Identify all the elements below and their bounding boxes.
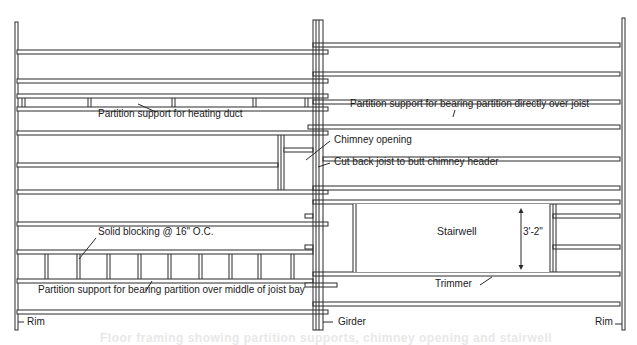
stairwell-tail-joist (553, 245, 620, 249)
girder-splice-block (305, 283, 337, 287)
floor-joist-left (17, 190, 328, 194)
bearing-over-joist-leader (453, 110, 455, 117)
label-bearing-over-joist: Partition support for bearing partition … (350, 98, 589, 109)
floor-joist-left (17, 50, 328, 54)
floor-joist-right (313, 200, 620, 204)
label-stair-dimension: 3'-2" (523, 226, 543, 237)
label-cut-back-joist: Cut back joist to butt chimney header (334, 156, 499, 167)
floor-joist-right (313, 186, 620, 190)
label-middle-of-bay: Partition support for bearing partition … (38, 284, 305, 295)
floor-joist-left (17, 163, 278, 167)
right-rim-joist (622, 18, 625, 330)
label-girder: Girder (338, 316, 366, 327)
cut-back-joist-leader (318, 163, 330, 167)
label-chimney-opening: Chimney opening (334, 134, 412, 145)
stairwell-opening (353, 204, 550, 272)
floor-joist-left (17, 250, 313, 254)
floor-joist-right (313, 43, 620, 47)
left-rim-joist (15, 22, 18, 330)
label-stairwell: Stairwell (437, 226, 477, 237)
floor-joist-right (313, 302, 620, 306)
floor-joist-left (17, 94, 328, 98)
floor-joist-left (17, 79, 328, 83)
label-heating-duct: Partition support for heating duct (98, 108, 243, 119)
chimney-inner-header (284, 148, 313, 152)
floor-joist-left (17, 279, 313, 283)
label-rim-right: Rim (595, 316, 613, 327)
floor-joist-left (17, 131, 328, 135)
girder-splice-block (305, 214, 313, 218)
girder-splice-block (305, 245, 313, 249)
label-trimmer: Trimmer (435, 278, 472, 289)
solid-blocking-leader (79, 238, 96, 259)
floor-joist-right (313, 72, 620, 76)
label-solid-blocking: Solid blocking @ 16" O.C. (98, 226, 213, 237)
trimmer-leader (480, 277, 492, 285)
label-rim-left: Rim (27, 316, 45, 327)
floor-joist-right (308, 125, 620, 129)
floor-joist-right (313, 272, 620, 276)
bleed-through-caption: Floor framing showing partition supports… (100, 331, 552, 345)
floor-joist-left (17, 310, 328, 314)
stairwell-tail-joist (553, 214, 620, 218)
